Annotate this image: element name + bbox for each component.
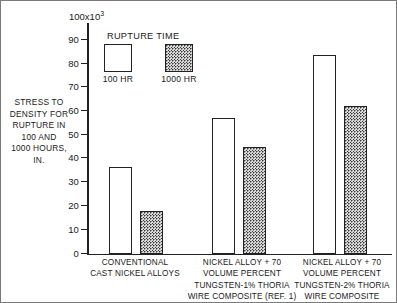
bar-group2-1000hr: [243, 147, 266, 253]
category-3-line-4: WIRE COMPOSITE: [286, 291, 397, 302]
category-1-line-1: CONVENTIONAL: [75, 257, 195, 268]
bar-group1-1000hr: [140, 211, 163, 254]
bars-layer: [1, 1, 397, 254]
category-1-line-2: CAST NICKEL ALLOYS: [75, 268, 195, 279]
category-2-line-2: VOLUME PERCENT: [183, 268, 301, 279]
bar-group1-100hr: [109, 167, 132, 254]
category-3-line-1: NICKEL ALLOY + 70: [286, 257, 397, 268]
bar-group2-100hr: [212, 118, 235, 254]
category-2-line-4: WIRE COMPOSITE (REF. 1): [183, 291, 301, 302]
category-label-2: NICKEL ALLOY + 70 VOLUME PERCENT TUNGSTE…: [183, 257, 301, 303]
x-axis-line: [87, 254, 392, 256]
bar-chart-figure: 100x103 90 80 70 60 50 40 30 20 10 0 STR…: [0, 0, 397, 303]
category-3-line-2: VOLUME PERCENT: [286, 268, 397, 279]
category-2-line-3: TUNGSTEN-1% THORIA: [183, 280, 301, 291]
category-label-1: CONVENTIONAL CAST NICKEL ALLOYS: [75, 257, 195, 280]
category-label-3: NICKEL ALLOY + 70 VOLUME PERCENT TUNGSTE…: [286, 257, 397, 303]
category-2-line-1: NICKEL ALLOY + 70: [183, 257, 301, 268]
category-3-line-3: TUNGSTEN-2% THORIA: [286, 280, 397, 291]
bar-group3-1000hr: [344, 106, 367, 254]
bar-group3-100hr: [313, 55, 336, 254]
